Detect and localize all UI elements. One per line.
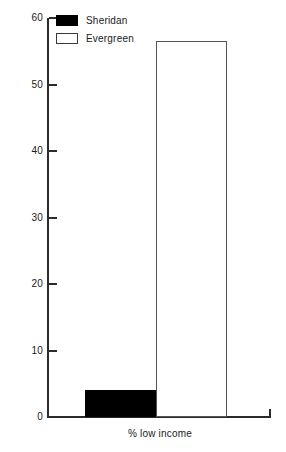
legend-swatch-sheridan-icon bbox=[56, 15, 78, 26]
y-axis-tick-label: 20 bbox=[3, 279, 43, 289]
bar-sheridan bbox=[85, 390, 156, 417]
y-axis-tick-label: 30 bbox=[3, 213, 43, 223]
y-axis-tick-label: 10 bbox=[3, 346, 43, 356]
x-axis-label: % low income bbox=[48, 428, 272, 440]
y-axis-tick-label: 0 bbox=[3, 412, 43, 422]
legend: Sheridan Evergreen bbox=[56, 12, 134, 48]
y-axis-tick-label: 40 bbox=[3, 146, 43, 156]
y-axis-tick bbox=[49, 350, 57, 352]
y-axis-tick-label: 60 bbox=[3, 13, 43, 23]
y-axis-tick-label: 50 bbox=[3, 80, 43, 90]
legend-item-evergreen: Evergreen bbox=[56, 30, 134, 46]
bar-evergreen bbox=[156, 41, 227, 417]
y-axis-tick bbox=[49, 416, 57, 418]
y-axis-tick bbox=[49, 84, 57, 86]
legend-label-sheridan: Sheridan bbox=[86, 15, 128, 26]
y-axis-tick bbox=[49, 217, 57, 219]
legend-item-sheridan: Sheridan bbox=[56, 12, 134, 28]
legend-swatch-evergreen-icon bbox=[56, 33, 78, 44]
bar-chart: 6050403020100 Sheridan Evergreen % low i… bbox=[0, 0, 286, 452]
x-axis-end-tick bbox=[269, 409, 271, 418]
y-axis-tick bbox=[49, 150, 57, 152]
legend-label-evergreen: Evergreen bbox=[86, 33, 134, 44]
y-axis-tick bbox=[49, 283, 57, 285]
